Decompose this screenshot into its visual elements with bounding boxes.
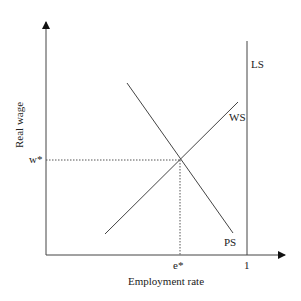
ls-label: LS bbox=[251, 58, 264, 70]
ps-label: PS bbox=[224, 236, 236, 248]
w-star-label: w* bbox=[29, 153, 42, 165]
y-axis-label: Real wage bbox=[13, 102, 25, 148]
e-star-label: e* bbox=[173, 259, 183, 271]
ws-label: WS bbox=[229, 111, 246, 123]
ws-curve bbox=[105, 102, 238, 234]
full-employment-tick-label: 1 bbox=[244, 259, 250, 271]
ws-ps-diagram: LS WS PS w* e* 1 Employment rate Real wa… bbox=[0, 0, 301, 301]
ps-curve bbox=[127, 83, 233, 233]
x-axis-label: Employment rate bbox=[128, 275, 204, 287]
